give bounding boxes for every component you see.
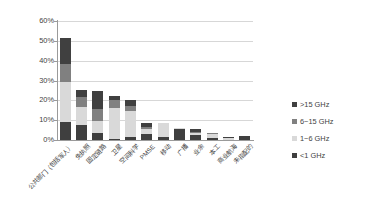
legend-swatch-icon xyxy=(292,153,297,158)
y-axis-tick xyxy=(54,120,57,121)
stacked-bar-chart: 60%50%40%30%20%10%0% 公共部门（包括军人）免执照固定链路卫星… xyxy=(0,0,374,224)
y-axis-tick xyxy=(54,21,57,22)
y-axis-tick xyxy=(54,61,57,62)
legend-label: <1 GHz xyxy=(300,151,325,160)
legend-swatch-icon xyxy=(292,136,297,141)
legend-item[interactable]: >15 GHz xyxy=(292,96,372,112)
legend-label: >15 GHz xyxy=(300,100,329,109)
legend-swatch-icon xyxy=(292,119,297,124)
legend-label: 1~6 GHz xyxy=(300,134,329,143)
legend-label: 6~15 GHz xyxy=(300,117,333,126)
y-axis-tick xyxy=(54,41,57,42)
legend-item[interactable]: <1 GHz xyxy=(292,147,372,163)
y-axis-tick xyxy=(54,100,57,101)
legend-swatch-icon xyxy=(292,102,297,107)
y-axis-tick xyxy=(54,140,57,141)
legend-item[interactable]: 1~6 GHz xyxy=(292,130,372,146)
chart-legend: >15 GHz6~15 GHz1~6 GHz<1 GHz xyxy=(292,96,372,164)
y-axis-tick xyxy=(54,81,57,82)
legend-item[interactable]: 6~15 GHz xyxy=(292,113,372,129)
